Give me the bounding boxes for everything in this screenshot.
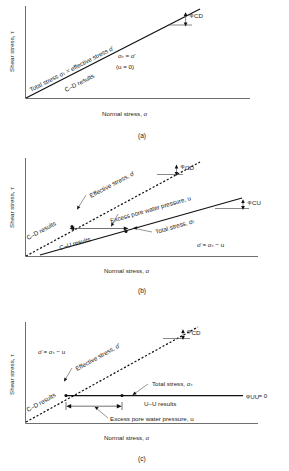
panel-c: φ CD φ UU = 0 Effective stress, σ̄ Total…: [0, 300, 289, 471]
cd-results-label-a: C–D results: [63, 72, 95, 93]
dim-arrowhead-right-c: [117, 404, 122, 408]
caption-a: (a): [138, 132, 146, 140]
x-axis-label-a: Normal stress, σ: [102, 110, 148, 117]
phi-cu-symbol-b: φ: [248, 198, 252, 205]
leader-total-head-c: [132, 392, 136, 396]
y-axis-label-b: Shear stress, τ: [8, 187, 15, 228]
equation-c: σ̄ = σₜ − u: [38, 348, 66, 355]
angle-cu-arrowhead-up-b: [241, 199, 245, 203]
note-pore-pressure-a: (u = 0): [116, 63, 134, 70]
y-axis-label-c: Shear stress, τ: [8, 354, 15, 395]
panel-b-plot: φ CD φ CU Effective stress, σ̄ Excess po…: [0, 150, 289, 300]
uu-results-label-c: U–U results: [144, 400, 176, 407]
panel-a-plot: φ CD Total stress σₜ = effective stress …: [0, 0, 289, 150]
caption-b: (b): [138, 287, 146, 295]
leader-total-b: [135, 229, 152, 233]
angle-arrowhead-up-a: [184, 12, 188, 16]
pore-pressure-label-c: Excess pore water pressure, u: [110, 415, 194, 422]
envelope-line-a: [26, 9, 200, 98]
panel-a: φ CD Total stress σₜ = effective stress …: [0, 0, 289, 150]
angle-arrowhead-down-a: [184, 23, 188, 27]
point-effective-b: [71, 225, 74, 228]
point-right-c: [120, 394, 123, 397]
point-total-b: [125, 230, 128, 233]
effective-stress-label-b: Effective stress, σ̄: [88, 169, 136, 199]
phi-uu-value-c: = 0: [259, 392, 268, 399]
phi-cd-symbol-c: φ: [187, 327, 191, 334]
leader-pore-c: [96, 408, 108, 418]
angle-cd-label-c: φ CD: [187, 327, 201, 336]
caption-c: (c): [138, 455, 146, 463]
effective-stress-label-c: Effective stress, σ̄: [74, 341, 121, 371]
angle-label-a: φ CD: [190, 11, 204, 20]
leader-total-c: [134, 384, 148, 394]
equation-b: σ̄ = σₜ − u: [197, 241, 225, 248]
y-axis-label-a: Shear stress, τ: [8, 31, 15, 72]
phi-subscript-a: CD: [194, 12, 203, 19]
x-axis-label-c: Normal stress, σ: [104, 434, 150, 441]
angle-cu-arrowhead-down-b: [241, 206, 245, 210]
note-sigma-equality-a: σₜ = σ̄: [118, 52, 136, 59]
total-stress-label-b: Total stress, σₜ: [154, 217, 195, 235]
leader-effective-head-c: [64, 378, 67, 382]
effective-stress-line-c: [26, 327, 198, 422]
cd-results-label-c: C–D results: [25, 391, 57, 413]
pore-pressure-label-b: Excess pore water pressure, u: [109, 194, 192, 224]
panel-c-plot: φ CD φ UU = 0 Effective stress, σ̄ Total…: [0, 300, 289, 471]
point-left-c: [64, 394, 67, 397]
angle-cd-arrowhead-down-c: [181, 336, 185, 340]
cu-results-label-b: C–U results: [58, 235, 91, 251]
leader-effective-c: [65, 368, 72, 380]
panel-b: φ CD φ CU Effective stress, σ̄ Excess po…: [0, 150, 289, 300]
angle-cd-arrowhead-up-b: [175, 165, 179, 169]
leader-effective-head-b: [77, 206, 80, 210]
phi-symbol-a: φ: [190, 11, 194, 18]
angle-uu-label-c: φ UU = 0: [246, 392, 268, 401]
angle-cd-label-b: φ CD: [181, 162, 195, 171]
dim-arrowhead-left-c: [66, 404, 71, 408]
cd-results-label-b: C–D results: [25, 220, 57, 241]
phi-cd-symbol-b: φ: [181, 162, 185, 169]
leader-total-head-b: [133, 226, 137, 230]
total-stress-label-c: Total stress, σₜ: [152, 380, 193, 387]
angle-cu-label-b: φ CU: [248, 198, 261, 207]
phi-cu-subscript-b: CU: [252, 199, 261, 206]
effective-stress-line-b: [26, 162, 200, 256]
leader-effective-b: [78, 195, 86, 208]
phi-cd-subscript-c: CD: [192, 329, 201, 336]
angle-cd-arrowhead-up-c: [181, 329, 185, 333]
phi-cd-subscript-b: CD: [185, 164, 194, 171]
x-axis-label-b: Normal stress, σ: [104, 267, 150, 274]
